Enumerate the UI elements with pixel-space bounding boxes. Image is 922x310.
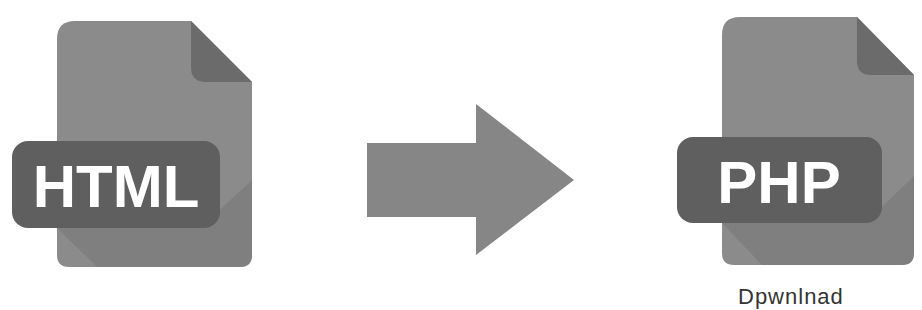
file-label: PHP (717, 149, 840, 216)
file-fold (857, 17, 914, 75)
php-file-icon: PHP (677, 17, 914, 265)
arrow-right-icon (367, 104, 574, 255)
html-file-icon: HTML (12, 21, 252, 267)
file-label: HTML (33, 153, 200, 220)
caption-clipped: Dpwnlnad (738, 284, 844, 310)
file-fold (191, 21, 252, 82)
